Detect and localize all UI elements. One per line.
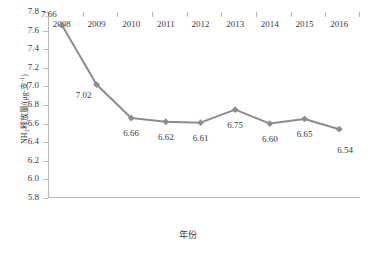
x-axis-title: 年份 (0, 228, 376, 241)
chart-figure: NH3释放量/(μg·支-1) 5.86.06.26.46.66.87.07.2… (0, 0, 376, 256)
data-point-label: 7.02 (76, 90, 92, 100)
data-point-marker (197, 119, 204, 126)
y-axis-tick-label: 7.8 (28, 6, 39, 16)
y-axis-tick-label: 6.4 (28, 136, 39, 146)
y-axis-tick-label: 7.2 (28, 62, 39, 72)
data-point-label: 6.61 (193, 133, 209, 143)
data-point-label: 6.66 (123, 128, 139, 138)
y-axis-tick-label: 7.6 (28, 25, 39, 35)
y-axis-tick-label: 6.6 (28, 118, 39, 128)
data-point-label: 6.62 (158, 132, 174, 142)
data-point-marker (266, 120, 273, 127)
y-axis-tick-label: 5.8 (28, 192, 39, 202)
y-axis-tick: 5.8 (43, 198, 48, 199)
y-axis-tick-label: 6.2 (28, 155, 39, 165)
data-point-marker (336, 126, 343, 133)
y-axis-title-superscript: -1 (19, 77, 25, 82)
y-axis-tick-label: 6.0 (28, 173, 39, 183)
data-point-marker (301, 116, 308, 123)
plot-area: 5.86.06.26.46.66.87.07.27.47.67.8 200820… (48, 12, 360, 198)
data-point-label: 6.65 (297, 129, 313, 139)
data-point-label: 6.75 (227, 120, 243, 130)
data-series-line (48, 12, 360, 198)
data-point-label: 6.54 (337, 145, 353, 155)
data-point-marker (232, 106, 239, 113)
y-axis-title-tail: ) (20, 74, 29, 77)
series-polyline (62, 25, 339, 129)
data-point-label: 7.66 (41, 9, 57, 19)
data-point-label: 6.60 (262, 134, 278, 144)
y-axis-tick-label: 7.0 (28, 80, 39, 90)
y-axis-tick-label: 7.4 (28, 43, 39, 53)
y-axis-tick-label: 6.8 (28, 99, 39, 109)
data-point-marker (162, 118, 169, 125)
y-axis-title-subscript: 3 (24, 129, 30, 132)
